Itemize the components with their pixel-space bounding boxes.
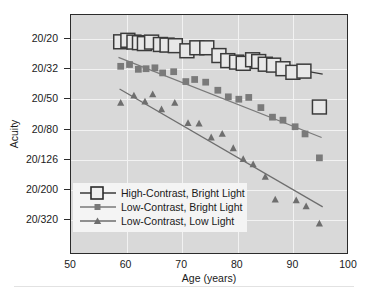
data-point [262,173,269,180]
y-tick-label: 20/50 [0,92,58,104]
data-point [214,87,221,94]
data-point [212,49,226,63]
data-point [184,119,191,126]
legend-marker-open-square [78,186,118,200]
y-tick-label: 20/320 [0,213,58,225]
data-point [149,91,156,98]
plot-area: High-Contrast, Bright Light Low-Contrast… [70,14,348,254]
data-point [221,54,235,68]
data-point [200,41,214,55]
data-point [168,39,182,53]
data-point [230,144,237,151]
x-axis-title: Age (years) [182,272,236,284]
data-point [246,53,260,67]
x-tick-label: 90 [287,258,299,270]
chart-legend: High-Contrast, Bright Light Low-Contrast… [73,183,247,232]
data-point [158,105,165,112]
data-point [121,33,135,47]
data-point [252,55,266,69]
data-point [190,41,204,55]
legend-item: Low-Contrast, Bright Light [78,200,242,214]
legend-label: Low-Contrast, Bright Light [118,201,242,213]
data-point [272,196,279,203]
x-tick-label: 70 [175,258,187,270]
data-point [280,117,287,124]
gridline-horizontal [71,69,347,70]
data-point [159,70,166,77]
legend-label: High-Contrast, Bright Light [118,187,245,199]
legend-item: High-Contrast, Bright Light [78,186,242,200]
y-tick-label: 20/200 [0,183,58,195]
data-point [132,36,146,50]
x-tick-label: 100 [339,258,357,270]
data-point [258,104,265,111]
y-tick-label: 20/20 [0,32,58,44]
data-point [230,55,244,69]
bottom-divider [14,286,354,287]
gridline-horizontal [71,39,347,40]
x-tick-label: 50 [64,258,76,270]
data-point [152,64,159,71]
data-point [202,79,209,86]
y-tick-label: 20/32 [0,62,58,74]
y-tick-label: 20/126 [0,153,58,165]
data-point [269,114,276,121]
legend-item: Low-Contrast, Low Light [78,214,242,228]
data-point [240,155,247,162]
data-point [127,35,141,49]
data-point [130,92,137,99]
y-tick-label: 20/80 [0,123,58,135]
x-tick-label: 80 [231,258,243,270]
data-point [303,202,310,209]
acuity-vs-age-figure: Acuity Age (years) 20/2020/3220/5020/802… [0,0,368,292]
data-point [250,161,257,168]
data-point [191,76,198,83]
gridline-horizontal [71,160,347,161]
data-point [114,35,128,49]
legend-marker-filled-square [78,200,118,214]
series-0 [114,33,327,114]
data-point [297,64,311,78]
series-1 [117,57,322,161]
data-point [208,134,215,141]
data-point [312,100,326,114]
gridline-horizontal [71,130,347,131]
data-point [182,78,189,85]
x-tick-label: 60 [120,258,132,270]
legend-marker-filled-triangle [78,214,118,228]
data-point [195,120,202,127]
gridline-vertical [293,15,294,253]
data-point [160,38,174,52]
data-point [219,130,226,137]
data-point [145,35,159,49]
gridline-horizontal [71,99,347,100]
legend-label: Low-Contrast, Low Light [118,215,234,227]
data-point [302,131,309,138]
